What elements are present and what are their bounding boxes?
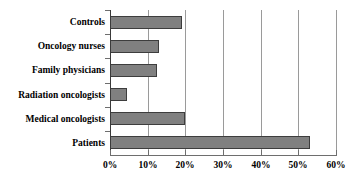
value-axis-tick (185, 150, 186, 156)
gridline (223, 10, 224, 155)
value-axis-tick-label: 50% (278, 160, 318, 171)
gridline (148, 10, 149, 155)
bar (110, 112, 185, 125)
category-axis-label: Controls (0, 17, 105, 27)
value-axis-tick (110, 150, 111, 156)
bar (110, 64, 157, 77)
category-axis: PatientsMedical oncologistsRadiation onc… (0, 10, 108, 155)
bar (110, 88, 127, 101)
value-axis-line (110, 10, 111, 156)
value-axis-tick (261, 150, 262, 156)
category-axis-tick (105, 107, 110, 108)
gridline (261, 10, 262, 155)
value-axis-tick-label: 0% (90, 160, 130, 171)
category-axis-tick (105, 58, 110, 59)
category-axis-label: Family physicians (0, 65, 105, 75)
value-axis-tick-label: 30% (203, 160, 243, 171)
value-axis-tick-label: 20% (165, 160, 205, 171)
bar (110, 40, 159, 53)
category-axis-tick (105, 34, 110, 35)
bar-chart: PatientsMedical oncologistsRadiation onc… (0, 0, 357, 185)
gridline (185, 10, 186, 155)
value-axis-tick (223, 150, 224, 156)
value-axis-tick-labels: 0%10%20%30%40%50%60% (0, 160, 357, 176)
value-axis-tick (148, 150, 149, 156)
category-axis-label: Medical oncologists (0, 114, 105, 124)
plot-area (110, 10, 336, 155)
category-axis-label: Radiation oncologists (0, 90, 105, 100)
value-axis-tick-label: 10% (128, 160, 168, 171)
value-axis-tick (336, 150, 337, 156)
category-axis-tick (105, 10, 110, 11)
category-axis-label: Oncology nurses (0, 41, 105, 51)
bar (110, 136, 310, 149)
gridline (298, 10, 299, 155)
category-axis-tick (105, 131, 110, 132)
value-axis-tick-label: 60% (316, 160, 356, 171)
category-axis-label: Patients (0, 138, 105, 148)
value-axis-tick-label: 40% (241, 160, 281, 171)
value-axis-tick (298, 150, 299, 156)
gridline (336, 10, 337, 155)
bar (110, 16, 182, 29)
category-axis-tick (105, 83, 110, 84)
